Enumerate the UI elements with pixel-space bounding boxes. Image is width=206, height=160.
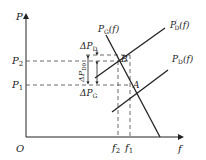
p1-label: P1 bbox=[11, 79, 23, 92]
y-axis-label: P bbox=[15, 11, 23, 22]
p2-label: P2 bbox=[11, 55, 23, 68]
point-b-label: B bbox=[120, 54, 128, 64]
point-a-label: A bbox=[132, 80, 140, 90]
delta-pg-label: ΔPG bbox=[79, 88, 98, 99]
delta-pd0-label: ΔPD0 bbox=[77, 62, 87, 83]
pd-prime-curve-label: P′D(f) bbox=[169, 18, 190, 31]
pd-curve bbox=[112, 70, 168, 112]
pg-curve-label: PG(f) bbox=[97, 24, 120, 35]
delta-pd-label: ΔPD bbox=[79, 41, 98, 52]
origin-label: O bbox=[16, 143, 24, 154]
power-frequency-diagram: P f O P2 P1 f2 f1 PG(f) P′D(f) PD(f) B A… bbox=[0, 0, 206, 160]
f1-label: f1 bbox=[124, 142, 133, 155]
pd-curve-label: PD(f) bbox=[171, 54, 194, 65]
f2-label: f2 bbox=[111, 142, 120, 155]
x-axis-label: f bbox=[177, 143, 184, 154]
